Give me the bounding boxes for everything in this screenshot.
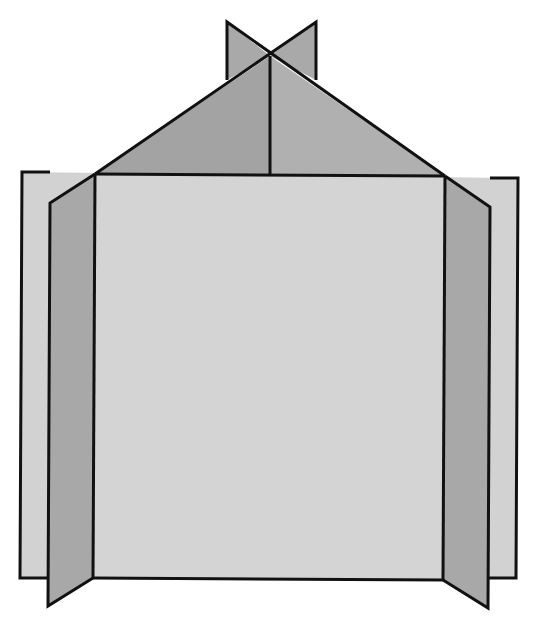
front-plane-right-edge (443, 176, 445, 580)
front-plane (93, 174, 445, 580)
front-plane-left-edge (93, 174, 95, 578)
left-side-panel (48, 174, 95, 606)
right-side-panel (443, 176, 490, 608)
geometric-planes-figure (0, 0, 537, 620)
back-plane-bottom-edge (93, 578, 443, 580)
front-plane-top-edge (95, 174, 445, 176)
